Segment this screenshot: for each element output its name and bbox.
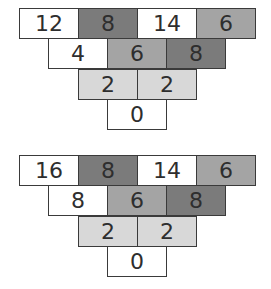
pyramid-cell: 8 bbox=[166, 38, 226, 69]
cell-value: 0 bbox=[130, 251, 144, 273]
cell-value: 4 bbox=[71, 43, 85, 65]
cell-value: 14 bbox=[153, 13, 181, 35]
cell-value: 2 bbox=[101, 221, 115, 243]
pyramid-cell: 2 bbox=[78, 69, 138, 100]
cell-value: 6 bbox=[219, 13, 233, 35]
cell-value: 2 bbox=[101, 74, 115, 96]
cell-value: 2 bbox=[160, 221, 174, 243]
pyramid-cell: 12 bbox=[19, 8, 79, 39]
cell-value: 2 bbox=[160, 74, 174, 96]
cell-value: 8 bbox=[101, 13, 115, 35]
cell-value: 16 bbox=[35, 160, 63, 182]
pyramid-cell: 0 bbox=[107, 246, 167, 277]
cell-value: 8 bbox=[101, 160, 115, 182]
pyramid-cell: 6 bbox=[107, 38, 167, 69]
cell-value: 8 bbox=[189, 190, 203, 212]
cell-value: 0 bbox=[130, 104, 144, 126]
pyramid-cell: 8 bbox=[48, 185, 108, 216]
pyramid-cell: 8 bbox=[78, 155, 138, 186]
cell-value: 12 bbox=[35, 13, 63, 35]
pyramid-cell: 8 bbox=[78, 8, 138, 39]
difference-pyramid-1: 12 8 14 6 4 6 8 2 2 0 bbox=[0, 8, 271, 133]
pyramid-cell: 14 bbox=[137, 155, 197, 186]
pyramid-cell: 6 bbox=[196, 8, 256, 39]
pyramid-cell: 2 bbox=[78, 216, 138, 247]
pyramid-cell: 16 bbox=[19, 155, 79, 186]
pyramid-cell: 2 bbox=[137, 216, 197, 247]
cell-value: 8 bbox=[71, 190, 85, 212]
pyramid-cell: 8 bbox=[166, 185, 226, 216]
pyramid-cell: 2 bbox=[137, 69, 197, 100]
pyramid-cell: 14 bbox=[137, 8, 197, 39]
cell-value: 6 bbox=[219, 160, 233, 182]
difference-pyramid-2: 16 8 14 6 8 6 8 2 2 0 bbox=[0, 155, 271, 280]
cell-value: 8 bbox=[189, 43, 203, 65]
pyramid-cell: 6 bbox=[107, 185, 167, 216]
pyramid-cell: 0 bbox=[107, 99, 167, 130]
pyramid-cell: 6 bbox=[196, 155, 256, 186]
cell-value: 6 bbox=[130, 190, 144, 212]
pyramid-cell: 4 bbox=[48, 38, 108, 69]
cell-value: 14 bbox=[153, 160, 181, 182]
cell-value: 6 bbox=[130, 43, 144, 65]
